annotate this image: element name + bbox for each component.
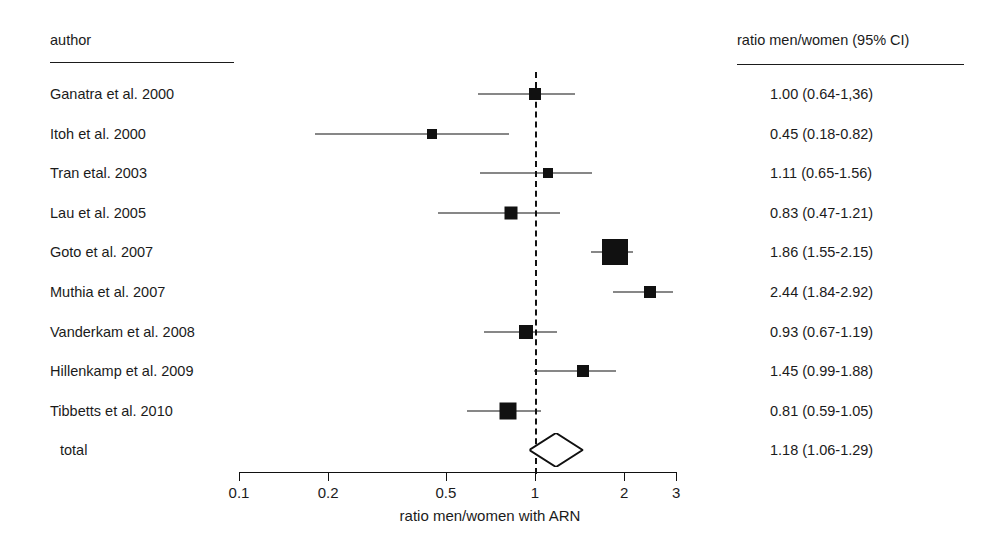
- confidence-interval-line: [438, 212, 560, 213]
- forest-plot: author ratio men/women (95% CI) Ganatra …: [0, 0, 989, 553]
- x-axis-tick: [328, 472, 329, 481]
- confidence-interval-line: [534, 371, 616, 372]
- ratio-ci-label: 0.83 (0.47-1.21): [770, 205, 873, 221]
- effect-estimate-marker: [577, 365, 589, 377]
- x-axis-tick-label: 2: [620, 484, 628, 501]
- effect-estimate-marker: [499, 402, 516, 419]
- x-axis-tick-label: 3: [672, 484, 680, 501]
- x-axis-tick-label: 1: [531, 484, 539, 501]
- x-axis-tick-label: 0.1: [229, 484, 250, 501]
- author-label: Vanderkam et al. 2008: [50, 324, 195, 340]
- ratio-ci-label: 0.81 (0.59-1.05): [770, 403, 873, 419]
- ratio-ci-label: 0.45 (0.18-0.82): [770, 126, 873, 142]
- x-axis-line: [239, 472, 676, 473]
- header-rule-author: [50, 62, 234, 63]
- author-label: total: [60, 442, 87, 458]
- ratio-ci-label: 1.86 (1.55-2.15): [770, 244, 873, 260]
- effect-estimate-marker: [602, 239, 628, 265]
- author-label: Ganatra et al. 2000: [50, 86, 174, 102]
- confidence-interval-line: [315, 133, 510, 134]
- x-axis-tick: [446, 472, 447, 481]
- ratio-ci-label: 1.11 (0.65-1.56): [770, 165, 872, 181]
- header-rule-ratio: [737, 64, 964, 65]
- effect-estimate-marker: [427, 129, 437, 139]
- effect-estimate-marker: [644, 286, 656, 298]
- author-label: Tibbetts et al. 2010: [50, 403, 173, 419]
- ratio-ci-label: 1.45 (0.99-1.88): [770, 363, 873, 379]
- x-axis-tick: [676, 472, 677, 481]
- summary-diamond: [530, 433, 583, 467]
- column-header-ratio: ratio men/women (95% CI): [737, 32, 909, 48]
- x-axis-tick: [535, 472, 536, 481]
- ratio-ci-label: 2.44 (1.84-2.92): [770, 284, 873, 300]
- effect-estimate-marker: [519, 325, 533, 339]
- author-label: Lau et al. 2005: [50, 205, 146, 221]
- author-label: Hillenkamp et al. 2009: [50, 363, 193, 379]
- author-label: Itoh et al. 2000: [50, 126, 146, 142]
- x-axis-title: ratio men/women with ARN: [400, 507, 581, 524]
- effect-estimate-marker: [529, 88, 541, 100]
- effect-estimate-marker: [543, 168, 553, 178]
- ratio-ci-label: 1.00 (0.64-1,36): [770, 86, 873, 102]
- ratio-ci-label: 0.93 (0.67-1.19): [770, 324, 873, 340]
- x-axis-tick-label: 0.5: [435, 484, 456, 501]
- author-label: Muthia et al. 2007: [50, 284, 165, 300]
- reference-line-at-1: [535, 72, 537, 474]
- column-header-author: author: [50, 32, 91, 48]
- effect-estimate-marker: [505, 206, 518, 219]
- ratio-ci-label: 1.18 (1.06-1.29): [770, 442, 873, 458]
- x-axis-tick: [239, 472, 240, 481]
- x-axis-tick: [624, 472, 625, 481]
- author-label: Goto et al. 2007: [50, 244, 153, 260]
- confidence-interval-line: [480, 173, 593, 174]
- confidence-interval-line: [478, 94, 575, 95]
- x-axis-tick-label: 0.2: [318, 484, 339, 501]
- author-label: Tran etal. 2003: [50, 165, 147, 181]
